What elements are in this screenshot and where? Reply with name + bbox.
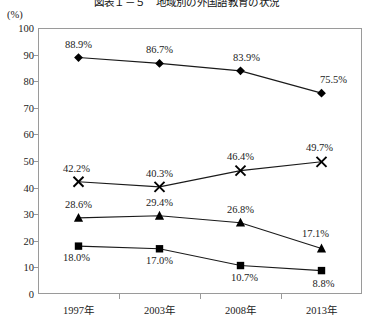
data-point-label: 86.7% — [146, 44, 173, 55]
data-point-label: 42.2% — [63, 163, 90, 174]
y-axis-tick-mark — [34, 188, 38, 189]
x-axis-tick-mark — [200, 294, 201, 299]
x-axis-tick-label: 2013年 — [306, 302, 337, 317]
data-point-label: 26.8% — [227, 204, 254, 215]
data-point-label: 29.4% — [146, 197, 173, 208]
y-axis-tick-mark — [34, 81, 38, 82]
data-point-label: 17.0% — [146, 255, 173, 266]
x-axis-tick-mark — [281, 294, 282, 299]
y-axis-unit-label: (%) — [7, 9, 23, 20]
y-axis-tick-mark — [34, 214, 38, 215]
data-point-label: 49.7% — [306, 142, 333, 153]
chart-title: 図表１－５ 地域別の外国語教育の状況 — [0, 0, 373, 9]
y-axis-tick-label: 40 — [2, 182, 34, 193]
y-axis-tick-label: 80 — [2, 76, 34, 87]
x-axis-tick-label: 2008年 — [225, 302, 256, 317]
x-axis-tick-label: 2003年 — [144, 302, 175, 317]
y-axis-tick-label: 70 — [2, 102, 34, 113]
data-point-label: 10.7% — [231, 272, 258, 283]
y-axis-tick-label: 60 — [2, 129, 34, 140]
y-axis-tick-label: 100 — [2, 23, 34, 34]
y-axis-tick-label: 90 — [2, 49, 34, 60]
y-axis-tick-mark — [34, 108, 38, 109]
y-axis-tick-label: 30 — [2, 209, 34, 220]
data-point-label: 75.5% — [320, 74, 347, 85]
line-chart: 図表１－５ 地域別の外国語教育の状況 (%) 10090807060504030… — [0, 0, 373, 329]
y-axis-tick-label: 50 — [2, 156, 34, 167]
data-point-label: 28.6% — [65, 199, 92, 210]
x-axis-tick-mark — [119, 294, 120, 299]
y-axis-tick-mark — [34, 267, 38, 268]
data-point-label: 83.9% — [233, 52, 260, 63]
y-axis-tick-mark — [34, 134, 38, 135]
y-axis-tick-mark — [34, 55, 38, 56]
x-axis-tick-label: 1997年 — [63, 302, 94, 317]
y-axis-tick-label: 10 — [2, 262, 34, 273]
data-point-label: 88.9% — [65, 39, 92, 50]
y-axis-tick-label: 20 — [2, 235, 34, 246]
y-axis-tick-mark — [34, 241, 38, 242]
data-point-label: 8.8% — [313, 278, 335, 289]
data-point-label: 17.1% — [302, 228, 329, 239]
y-axis-tick-mark — [34, 161, 38, 162]
data-point-label: 46.4% — [227, 151, 254, 162]
y-axis-tick-label: 0 — [2, 289, 34, 300]
data-point-label: 40.3% — [146, 168, 173, 179]
data-point-label: 18.0% — [63, 252, 90, 263]
